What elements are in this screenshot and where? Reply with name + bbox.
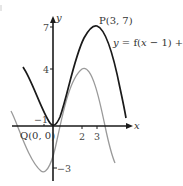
tick-label-neg3: −3: [57, 163, 71, 174]
graph: y x 7 4 −1 −3 2 3 P(3, 7) Q(0, 0) y = f(…: [0, 0, 183, 186]
x-axis-arrow-icon: [126, 123, 133, 129]
tick-label-7: 7: [43, 22, 49, 33]
tick-label-4: 4: [43, 64, 49, 75]
tick-label-neg1: −1: [34, 114, 48, 125]
y-axis-label: y: [55, 12, 62, 23]
equation-tail: − 1) + 3: [147, 37, 183, 48]
tick-label-2: 2: [79, 131, 85, 142]
equation-label: y = f(x − 1) + 3: [112, 37, 183, 48]
curve-f-x: [11, 68, 115, 172]
cropped-label-fragment: [0, 5, 2, 11]
point-p-label: P(3, 7): [99, 15, 133, 26]
tick-label-3: 3: [94, 131, 100, 142]
equation-mid: = f(: [119, 37, 141, 48]
point-q-label: Q(0, 0): [20, 130, 55, 141]
curve-f-x-minus-1-plus-3: [23, 26, 126, 125]
x-axis-label: x: [134, 120, 140, 131]
